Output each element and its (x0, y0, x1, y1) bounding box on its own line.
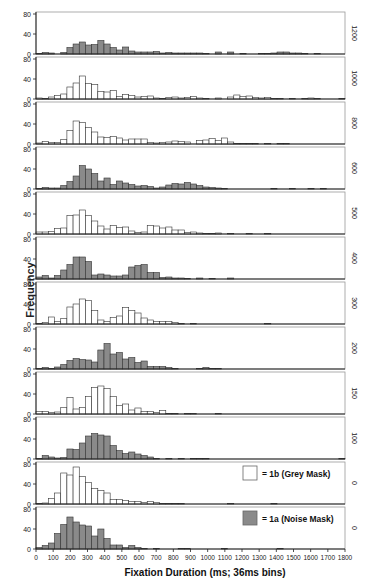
histogram-bar (73, 44, 79, 54)
y-tick-label: 40 (23, 481, 31, 488)
histogram-bar (178, 230, 184, 234)
histogram-bar (61, 525, 67, 550)
histogram-bar (123, 227, 129, 234)
histogram-bar (85, 128, 91, 145)
histogram-bar (116, 181, 122, 189)
y-tick-label: 80 (23, 461, 31, 468)
histogram-bar (55, 229, 61, 235)
histogram-bar (85, 169, 91, 189)
histogram-bar (92, 221, 98, 234)
histogram-bar (92, 362, 98, 369)
histogram-bar (135, 363, 141, 370)
y-tick-label: 80 (23, 506, 31, 513)
histogram-bar (234, 95, 240, 99)
histogram-bar (129, 267, 135, 279)
histogram-bar (79, 525, 85, 549)
histogram-bar (85, 483, 91, 505)
histogram-bar (61, 94, 67, 99)
histogram-bar (92, 434, 98, 460)
histogram-bar (197, 141, 203, 145)
histogram-bar (42, 546, 48, 550)
histogram-bar (61, 186, 67, 190)
x-tick-label: 200 (65, 554, 76, 561)
y-tick-label: 40 (23, 76, 31, 83)
histogram-bar (55, 493, 61, 504)
histogram-bar (135, 266, 141, 280)
histogram-bar (129, 311, 135, 325)
histogram-bar (73, 522, 79, 549)
x-tick-label: 600 (134, 554, 145, 561)
histogram-bar (85, 360, 91, 369)
histogram-bar (98, 350, 104, 369)
histogram-bar (116, 545, 122, 549)
histogram-bar (98, 181, 104, 189)
x-tick-label: 1500 (286, 554, 301, 561)
histogram-bar (123, 95, 129, 100)
histogram-bar (116, 50, 122, 54)
histogram-bar (141, 265, 147, 280)
histogram-bar (79, 166, 85, 190)
x-tick-label: 1600 (303, 554, 318, 561)
histogram-bar (110, 137, 116, 145)
histogram-bar (110, 226, 116, 235)
histogram-bar (73, 359, 79, 370)
histogram-bar (61, 270, 67, 279)
histogram-bar (147, 273, 153, 280)
histogram-bar (98, 491, 104, 505)
histogram-bar (123, 47, 129, 54)
delay-label: 0 (351, 526, 358, 530)
histogram-bar (135, 454, 141, 459)
x-tick-label: 1400 (269, 554, 284, 561)
histogram-bar (209, 139, 215, 145)
histogram-bar (184, 183, 190, 190)
histogram-bar (110, 545, 116, 549)
plot-area: 0408012000408010000408080004080600040805… (0, 0, 382, 588)
x-tick-label: 1800 (338, 554, 353, 561)
y-tick-label: 40 (23, 31, 31, 38)
histogram-bar (48, 317, 54, 324)
x-tick-label: 700 (151, 554, 162, 561)
histogram-bar (123, 501, 129, 505)
histogram-bar (123, 140, 129, 144)
x-tick-label: 300 (82, 554, 93, 561)
histogram-bar (73, 121, 79, 144)
histogram-bar (141, 186, 147, 190)
histogram-bar (92, 388, 98, 415)
y-tick-label: 80 (23, 326, 31, 333)
histogram-bar (123, 404, 129, 414)
histogram-bar (55, 534, 61, 550)
histogram-bar (73, 304, 79, 324)
histogram-bar (92, 85, 98, 100)
histogram-bar (110, 91, 116, 100)
histogram-bar (135, 408, 141, 414)
histogram-bar (104, 344, 110, 370)
delay-label: 500 (351, 207, 358, 219)
histogram-bar (135, 313, 141, 324)
x-tick-label: 900 (185, 554, 196, 561)
histogram-bar (141, 318, 147, 324)
y-tick-label: 40 (23, 346, 31, 353)
histogram-bar (141, 139, 147, 144)
histogram-bar (104, 275, 110, 279)
histogram-bar (104, 92, 110, 99)
histogram-bar (67, 216, 73, 235)
histogram-bar (67, 517, 73, 549)
histogram-bar (79, 408, 85, 415)
y-tick-label: 40 (23, 436, 31, 443)
histogram-bar (110, 446, 116, 460)
histogram-bar (92, 275, 98, 279)
histogram-bar (116, 138, 122, 144)
histogram-bar (104, 44, 110, 54)
y-tick-label: 80 (23, 236, 31, 243)
histogram-bar (67, 265, 73, 280)
histogram-bar (61, 319, 67, 325)
histogram-bar (42, 456, 48, 460)
legend-swatch (243, 466, 257, 480)
delay-label: 600 (351, 162, 358, 174)
histogram-bar (178, 184, 184, 189)
x-axis-label: Fixation Duration (ms; 36ms bins) (0, 567, 382, 578)
histogram-bar (61, 408, 67, 415)
histogram-bar (110, 48, 116, 55)
histogram-bar (85, 526, 91, 549)
y-tick-label: 80 (23, 416, 31, 423)
